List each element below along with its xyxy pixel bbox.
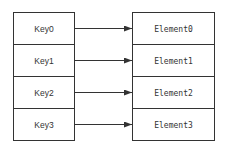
key-cell: Key2 bbox=[14, 77, 75, 109]
element-label: Element2 bbox=[154, 89, 193, 98]
key-cell: Key3 bbox=[14, 109, 75, 141]
key-label: Key3 bbox=[34, 120, 54, 130]
key-label: Key2 bbox=[34, 88, 54, 98]
element-label: Element3 bbox=[154, 121, 193, 130]
key-cell: Key0 bbox=[14, 13, 75, 45]
key-cell: Key1 bbox=[14, 45, 75, 77]
element-cell: Element2 bbox=[133, 77, 215, 109]
key-label: Key0 bbox=[34, 24, 54, 34]
arrows bbox=[75, 29, 133, 125]
mapping-diagram: Key0 Key1 Key2 Key3 Element0 Element1 bbox=[0, 0, 226, 150]
element-cell: Element3 bbox=[133, 109, 215, 141]
element-label: Element1 bbox=[154, 57, 193, 66]
element-label: Element0 bbox=[154, 25, 193, 34]
element-cell: Element1 bbox=[133, 45, 215, 77]
keys-column: Key0 Key1 Key2 Key3 bbox=[14, 13, 75, 141]
key-label: Key1 bbox=[34, 56, 54, 66]
elements-column: Element0 Element1 Element2 Element3 bbox=[133, 13, 215, 141]
element-cell: Element0 bbox=[133, 13, 215, 45]
